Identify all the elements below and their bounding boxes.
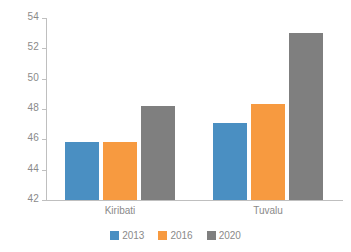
legend-swatch-icon <box>110 231 119 240</box>
bar <box>251 104 285 200</box>
bar <box>65 142 99 200</box>
bar <box>141 106 175 200</box>
y-axis-tick-mark <box>42 200 46 201</box>
bar <box>289 33 323 200</box>
legend-swatch-icon <box>158 231 167 240</box>
y-axis-tick-label: 42 <box>27 193 39 204</box>
x-axis-category-label: Tuvalu <box>218 205 318 217</box>
bar-chart: 42444648505254 KiribatiTuvalu 2013201620… <box>0 0 351 252</box>
y-axis-tick-label: 44 <box>27 163 39 174</box>
y-axis-tick-label: 52 <box>27 41 39 52</box>
legend-item[interactable]: 2016 <box>158 230 192 241</box>
plot-area <box>46 18 342 200</box>
x-axis-line <box>46 200 343 201</box>
legend-item-label: 2013 <box>122 230 144 241</box>
y-axis-tick-label: 48 <box>27 102 39 113</box>
x-axis-category-label: Kiribati <box>70 205 170 217</box>
y-axis-tick-label: 46 <box>27 132 39 143</box>
legend-item-label: 2016 <box>170 230 192 241</box>
legend-item[interactable]: 2020 <box>207 230 241 241</box>
bar <box>213 123 247 200</box>
chart-legend: 201320162020 <box>0 230 351 241</box>
y-axis-tick-label: 50 <box>27 72 39 83</box>
legend-swatch-icon <box>207 231 216 240</box>
bar <box>103 142 137 200</box>
legend-item[interactable]: 2013 <box>110 230 144 241</box>
legend-item-label: 2020 <box>219 230 241 241</box>
y-axis-tick-label: 54 <box>27 11 39 22</box>
